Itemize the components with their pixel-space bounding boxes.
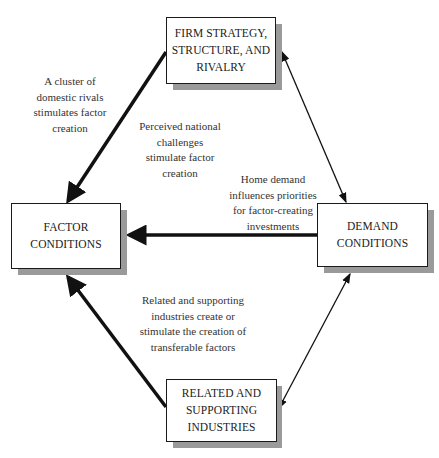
node-firm-strategy: FIRM STRATEGY, STRUCTURE, AND RIVALRY: [166, 17, 276, 84]
node-related-line: INDUSTRIES: [182, 419, 261, 436]
annotation-line: investments: [213, 219, 333, 235]
annotation-line: stimulate the creation of: [123, 324, 263, 340]
node-demand-line: DEMAND: [337, 218, 408, 235]
node-demand-conditions: DEMAND CONDITIONS: [317, 203, 428, 267]
edge-demand-related: [279, 274, 350, 408]
annotation-line: creation: [22, 121, 118, 137]
node-related-industries: RELATED AND SUPPORTING INDUSTRIES: [166, 379, 277, 442]
node-related-line: RELATED AND: [182, 385, 261, 402]
node-firm-line: STRUCTURE, AND: [172, 42, 271, 59]
annotation-line: transferable factors: [123, 340, 263, 356]
annotation-related-industries: Related and supporting industries create…: [123, 293, 263, 355]
node-demand-line: CONDITIONS: [337, 235, 408, 252]
node-related-line: SUPPORTING: [182, 402, 261, 419]
annotation-line: Perceived national: [125, 119, 235, 135]
annotation-line: stimulates factor: [22, 105, 118, 121]
annotation-line: Related and supporting: [123, 293, 263, 309]
annotation-line: challenges: [125, 135, 235, 151]
annotation-domestic-rivals: A cluster of domestic rivals stimulates …: [22, 74, 118, 136]
node-factor-conditions: FACTOR CONDITIONS: [11, 203, 121, 269]
annotation-line: domestic rivals: [22, 90, 118, 106]
annotation-home-demand: Home demand influences priorities for fa…: [213, 172, 333, 234]
annotation-line: stimulate factor: [125, 150, 235, 166]
node-factor-line: FACTOR: [30, 219, 101, 236]
annotation-line: A cluster of: [22, 74, 118, 90]
node-factor-line: CONDITIONS: [30, 236, 101, 253]
annotation-line: Home demand: [213, 172, 333, 188]
annotation-line: for factor-creating: [213, 203, 333, 219]
node-firm-line: FIRM STRATEGY,: [172, 25, 271, 42]
annotation-line: influences priorities: [213, 188, 333, 204]
annotation-line: industries create or: [123, 309, 263, 325]
node-firm-line: RIVALRY: [172, 59, 271, 76]
